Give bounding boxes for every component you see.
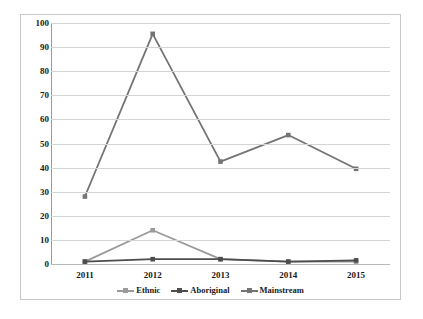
chart-container: 1009080706050403020100 20112012201320142… [20,14,401,300]
data-point-marker [83,194,88,199]
x-axis-tick-label: 2012 [144,270,162,280]
gridline [51,168,390,169]
legend-entry-mainstream[interactable]: Mainstream [241,286,304,295]
chart-legend: EthnicAboriginalMainstream [21,286,400,295]
y-axis-tick-label: 90 [23,43,49,52]
y-axis-tick-label: 40 [23,164,49,173]
data-point-marker [286,133,291,138]
x-axis-tick-label: 2014 [279,270,297,280]
chart-inner: 1009080706050403020100 20112012201320142… [21,15,400,299]
data-point-marker [354,258,359,263]
gridline [51,23,390,24]
y-axis-tick-label: 60 [23,115,49,124]
legend-label: Mainstream [260,286,304,295]
y-axis-tick-label: 10 [23,236,49,245]
gridline [51,192,390,193]
y-axis-tick-label: 100 [23,19,49,28]
gridline [51,144,390,145]
y-axis-tick-label: 20 [23,212,49,221]
x-axis-tick-labels: 20112012201320142015 [51,270,390,284]
data-point-marker [150,257,155,262]
y-axis-tick-labels: 1009080706050403020100 [21,23,49,264]
x-axis-tick-label: 2015 [347,270,365,280]
gridline [51,216,390,217]
data-point-marker [150,32,155,37]
gridline [51,119,390,120]
data-point-marker [218,257,223,262]
legend-entry-aboriginal[interactable]: Aboriginal [171,286,229,295]
y-axis-tick-label: 50 [23,140,49,149]
legend-marker-icon [171,286,188,295]
y-axis-tick-label: 70 [23,91,49,100]
legend-label: Ethnic [136,286,160,295]
y-axis-tick-label: 0 [23,260,49,269]
legend-marker-icon [117,286,134,295]
data-point-marker [218,159,223,164]
y-axis-tick-label: 80 [23,67,49,76]
x-axis-tick-label: 2013 [212,270,230,280]
gridline [51,95,390,96]
y-axis-tick-label: 30 [23,188,49,197]
gridline [51,71,390,72]
legend-marker-icon [241,286,258,295]
data-point-marker [150,228,155,233]
plot-area [51,23,390,264]
series-line [85,34,356,197]
legend-label: Aboriginal [190,286,229,295]
gridline [51,264,390,265]
x-axis-tick-label: 2011 [76,270,94,280]
legend-entry-ethnic[interactable]: Ethnic [117,286,160,295]
gridline [51,240,390,241]
gridline [51,47,390,48]
